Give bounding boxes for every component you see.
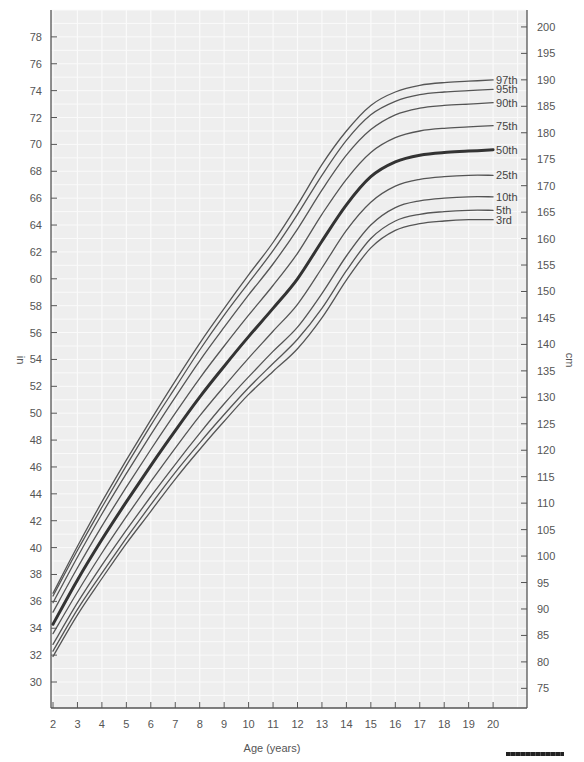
y-tick-label-in: 76: [30, 58, 42, 70]
y-axis-title-right: cm: [564, 353, 576, 368]
x-tick-label: 17: [414, 718, 426, 730]
y-tick-label-cm: 145: [537, 312, 555, 324]
percentile-label-75th: 75th: [496, 120, 517, 132]
x-tick-label: 12: [291, 718, 303, 730]
y-tick-label-in: 54: [30, 353, 42, 365]
y-tick-label-in: 46: [30, 461, 42, 473]
x-tick-label: 5: [123, 718, 129, 730]
y-tick-label-in: 36: [30, 595, 42, 607]
y-tick-label-cm: 175: [537, 153, 555, 165]
x-tick-label: 8: [197, 718, 203, 730]
y-tick-label-in: 42: [30, 515, 42, 527]
y-tick-label-in: 78: [30, 31, 42, 43]
percentile-label-90th: 90th: [496, 97, 517, 109]
y-tick-label-cm: 150: [537, 285, 555, 297]
x-tick-label: 3: [74, 718, 80, 730]
percentile-label-5th: 5th: [496, 204, 511, 216]
y-tick-label-cm: 185: [537, 100, 555, 112]
x-tick-label: 13: [316, 718, 328, 730]
y-tick-label-in: 40: [30, 542, 42, 554]
y-tick-label-in: 48: [30, 434, 42, 446]
x-tick-label: 7: [172, 718, 178, 730]
corner-mark: [506, 752, 564, 756]
y-tick-label-cm: 165: [537, 206, 555, 218]
x-tick-label: 14: [340, 718, 352, 730]
percentile-label-50th: 50th: [496, 144, 517, 156]
y-tick-label-in: 50: [30, 407, 42, 419]
x-tick-label: 11: [267, 718, 278, 730]
y-tick-label-in: 56: [30, 327, 42, 339]
y-tick-label-cm: 75: [537, 682, 549, 694]
y-tick-label-in: 38: [30, 568, 42, 580]
y-tick-label-in: 30: [30, 676, 42, 688]
y-tick-label-in: 72: [30, 112, 42, 124]
y-tick-label-in: 44: [30, 488, 42, 500]
x-tick-label: 18: [438, 718, 450, 730]
y-tick-label-cm: 130: [537, 391, 555, 403]
y-tick-label-cm: 95: [537, 577, 549, 589]
y-tick-label-in: 52: [30, 380, 42, 392]
y-tick-label-cm: 115: [537, 471, 555, 483]
x-tick-label: 10: [242, 718, 254, 730]
percentile-label-10th: 10th: [496, 191, 517, 203]
y-tick-label-cm: 110: [537, 497, 555, 509]
y-tick-label-in: 34: [30, 622, 42, 634]
y-tick-label-cm: 85: [537, 629, 549, 641]
y-tick-label-cm: 90: [537, 603, 549, 615]
y-tick-label-cm: 190: [537, 74, 555, 86]
y-tick-label-in: 32: [30, 649, 42, 661]
percentile-label-97th: 97th: [496, 74, 517, 86]
x-tick-label: 6: [148, 718, 154, 730]
y-tick-label-cm: 140: [537, 338, 555, 350]
y-tick-label-cm: 160: [537, 233, 555, 245]
y-tick-label-cm: 155: [537, 259, 555, 271]
y-tick-label-cm: 170: [537, 180, 555, 192]
growth-chart: 3032343638404244464850525456586062646668…: [0, 0, 584, 762]
x-tick-label: 2: [50, 718, 56, 730]
y-tick-label-in: 60: [30, 273, 42, 285]
y-tick-label-in: 74: [30, 85, 42, 97]
x-tick-label: 16: [389, 718, 401, 730]
y-tick-label-cm: 105: [537, 524, 555, 536]
y-tick-label-in: 70: [30, 138, 42, 150]
x-tick-label: 19: [463, 718, 475, 730]
percentile-label-25th: 25th: [496, 169, 517, 181]
y-tick-label-cm: 120: [537, 444, 555, 456]
x-tick-label: 15: [365, 718, 377, 730]
y-tick-label-cm: 135: [537, 365, 555, 377]
y-tick-label-in: 62: [30, 246, 42, 258]
y-axis-title-left: in: [15, 356, 27, 365]
y-tick-label-in: 68: [30, 165, 42, 177]
y-tick-label-in: 64: [30, 219, 42, 231]
x-tick-label: 20: [487, 718, 499, 730]
x-tick-label: 4: [99, 718, 105, 730]
x-tick-label: 9: [221, 718, 227, 730]
y-tick-label-cm: 195: [537, 47, 555, 59]
y-tick-label-cm: 180: [537, 127, 555, 139]
y-tick-label-in: 58: [30, 300, 42, 312]
y-tick-label-cm: 200: [537, 21, 555, 33]
y-tick-label-cm: 125: [537, 418, 555, 430]
y-tick-label-in: 66: [30, 192, 42, 204]
x-axis-title: Age (years): [244, 742, 301, 754]
y-tick-label-cm: 80: [537, 656, 549, 668]
y-tick-label-cm: 100: [537, 550, 555, 562]
